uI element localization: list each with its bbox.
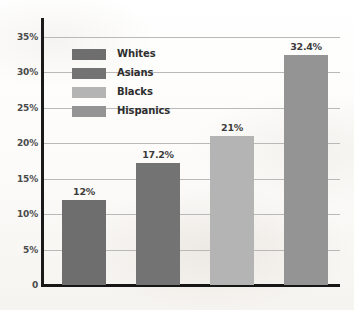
legend-label: Asians xyxy=(117,68,153,78)
y-axis-tick-label: 10% xyxy=(4,210,38,219)
chart-legend: WhitesAsiansBlacksHispanics xyxy=(72,45,187,121)
bar-value-label: 17.2% xyxy=(123,150,193,160)
legend-label: Whites xyxy=(117,49,156,59)
bar-blacks[interactable] xyxy=(210,136,254,285)
legend-item-asians[interactable]: Asians xyxy=(72,64,187,82)
legend-label: Hispanics xyxy=(117,106,170,116)
y-axis-tick-labels: 05%10%15%20%25%30%35% xyxy=(0,0,38,310)
legend-item-hispanics[interactable]: Hispanics xyxy=(72,102,187,120)
legend-swatch-icon xyxy=(72,49,106,60)
legend-swatch-icon xyxy=(72,106,106,117)
bar-value-label: 21% xyxy=(197,123,267,133)
y-axis-tick-label: 35% xyxy=(4,33,38,42)
legend-swatch-icon xyxy=(72,87,106,98)
legend-swatch-icon xyxy=(72,68,106,79)
legend-label: Blacks xyxy=(117,87,153,97)
legend-item-whites[interactable]: Whites xyxy=(72,45,187,63)
bar-hispanics[interactable] xyxy=(284,55,328,285)
bar-whites[interactable] xyxy=(62,200,106,285)
y-axis-tick-label: 15% xyxy=(4,175,38,184)
y-axis-tick-label: 20% xyxy=(4,139,38,148)
y-axis-tick-label: 25% xyxy=(4,104,38,113)
bar-chart: 05%10%15%20%25%30%35% 12%17.2%21%32.4% W… xyxy=(0,0,354,310)
bar-value-label: 12% xyxy=(49,187,119,197)
bar-value-label: 32.4% xyxy=(271,42,341,52)
y-axis-tick-label: 0 xyxy=(4,281,38,290)
legend-item-blacks[interactable]: Blacks xyxy=(72,83,187,101)
bar-asians[interactable] xyxy=(136,163,180,285)
y-axis-tick-label: 30% xyxy=(4,68,38,77)
y-axis-tick-label: 5% xyxy=(4,246,38,255)
